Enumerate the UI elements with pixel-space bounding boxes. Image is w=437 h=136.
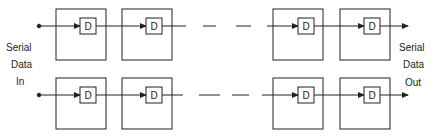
bottom-row [37,78,408,129]
diagram-svg: D D D D D D D D Serial Data In Serial Da… [0,0,437,136]
d-label: D [302,21,309,32]
d-label: D [150,90,157,101]
d-label: D [302,90,309,101]
output-label-line2: Data [403,59,425,70]
d-label: D [368,90,375,101]
d-label: D [368,21,375,32]
d-label: D [84,21,91,32]
d-label: D [84,90,91,101]
top-row [37,9,408,60]
d-label: D [150,21,157,32]
output-label-line3: Out [405,77,421,88]
input-label-line2: Data [11,59,33,70]
input-label-line3: In [16,76,24,87]
shift-register-diagram: D D D D D D D D Serial Data In Serial Da… [0,0,437,136]
input-label-line1: Serial [6,42,32,53]
output-label-line1: Serial [399,42,425,53]
